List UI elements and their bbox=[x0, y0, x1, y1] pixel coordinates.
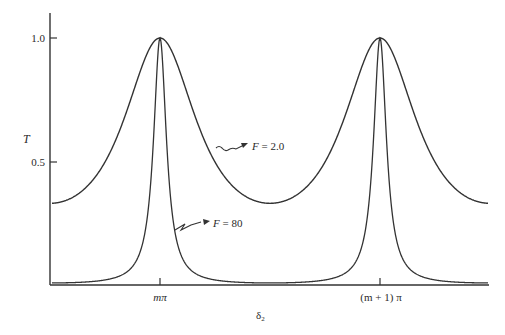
arrowhead-f2-icon bbox=[241, 143, 248, 148]
arrowhead-f80-icon bbox=[203, 219, 210, 225]
curve-f-80 bbox=[52, 38, 488, 283]
annotation-arrow-f2 bbox=[216, 145, 244, 151]
y-tick-label-05: 0.5 bbox=[31, 156, 45, 168]
x-axis-label: δ2 bbox=[256, 309, 265, 323]
y-axis-label: T bbox=[23, 132, 31, 146]
annotation-label-f2: F = 2.0 bbox=[251, 140, 285, 152]
x-tick-label-m1: (m + 1) π bbox=[360, 291, 402, 304]
y-tick-label-1: 1.0 bbox=[31, 32, 45, 44]
annotation-label-f80: F = 80 bbox=[212, 217, 243, 229]
annotation-arrow-f80 bbox=[175, 222, 201, 230]
chart: 1.0 0.5 T mπ (m + 1) π δ2 F = 2.0 F = 80 bbox=[0, 0, 505, 335]
curve-f-2 bbox=[52, 38, 488, 203]
x-tick-label-m: mπ bbox=[153, 291, 167, 303]
